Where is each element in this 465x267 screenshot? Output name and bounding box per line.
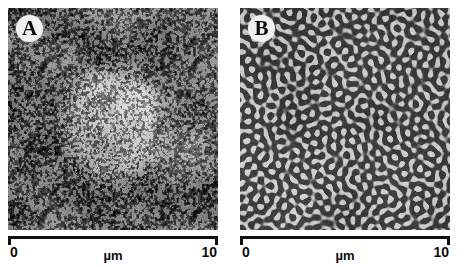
panel-b-label: B (248, 15, 275, 42)
panel-a-scalebar: 0 10 µm (8, 236, 218, 266)
panel-a-label: A (16, 15, 43, 42)
scalebar-line (8, 236, 218, 239)
scalebar-line (240, 236, 450, 239)
panel-b-scalebar: 0 10 µm (240, 236, 450, 266)
panel-a-canvas (8, 8, 218, 230)
panel-b-canvas (240, 8, 450, 230)
panel-a-image: A (8, 8, 218, 230)
panel-b-image: B (240, 8, 450, 230)
scalebar-unit-label: µm (8, 248, 218, 264)
figure-micrograph-pair: A 0 10 µm B 0 10 µm (0, 0, 465, 267)
scalebar-unit-label: µm (240, 248, 450, 264)
